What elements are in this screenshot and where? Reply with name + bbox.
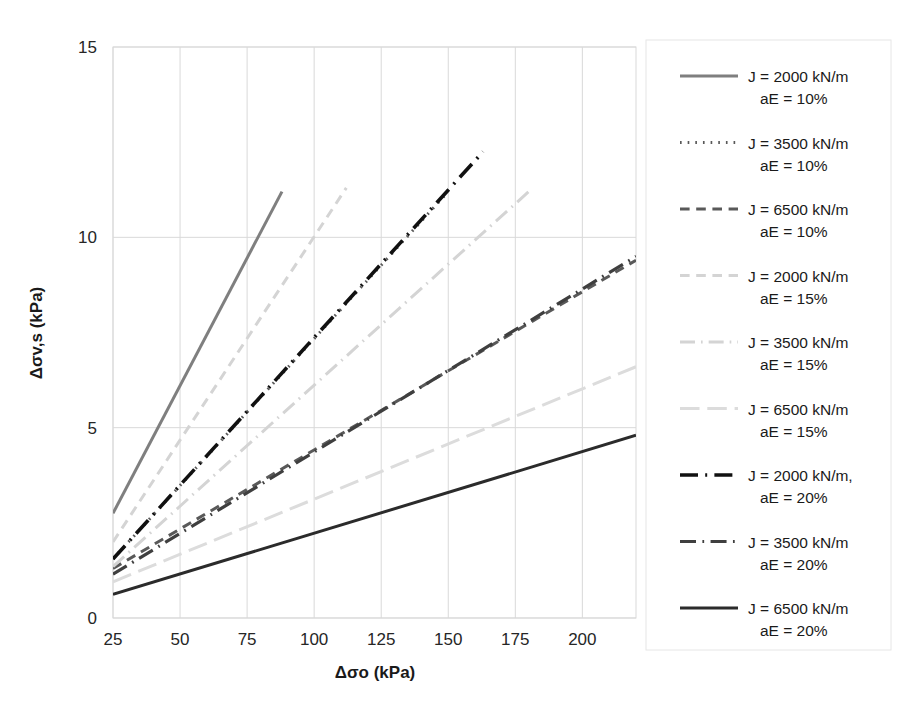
- x-tick-label: 50: [171, 630, 190, 649]
- x-tick-label: 100: [300, 630, 328, 649]
- y-tick-label: 5: [88, 419, 97, 438]
- legend-label-line2: aE = 15%: [760, 356, 828, 373]
- legend-label-line2: aE = 10%: [760, 157, 828, 174]
- x-tick-label: 125: [367, 630, 395, 649]
- legend-label-line2: aE = 10%: [760, 223, 828, 240]
- legend-label-line1: J = 6500 kN/m: [748, 401, 848, 418]
- legend-label-line1: J = 2000 kN/m: [748, 268, 848, 285]
- legend-label-line1: J = 2000 kN/m,: [748, 467, 853, 484]
- legend-label-line1: J = 3500 kN/m: [748, 135, 848, 152]
- legend-label-line2: aE = 15%: [760, 290, 828, 307]
- legend-label-line2: aE = 15%: [760, 423, 828, 440]
- legend-label-line2: aE = 20%: [760, 556, 828, 573]
- legend-label-line1: J = 6500 kN/m: [748, 201, 848, 218]
- x-tick-label: 150: [434, 630, 462, 649]
- x-tick-label: 25: [104, 630, 123, 649]
- legend-label-line1: J = 3500 kN/m: [748, 334, 848, 351]
- legend-label-line1: J = 3500 kN/m: [748, 534, 848, 551]
- y-axis-title: Δσv,s (kPa): [27, 287, 46, 380]
- legend-label-line1: J = 6500 kN/m: [748, 600, 848, 617]
- x-axis-title: Δσo (kPa): [335, 663, 416, 682]
- y-tick-label: 15: [78, 38, 97, 57]
- legend-label-line2: aE = 20%: [760, 489, 828, 506]
- y-tick-label: 0: [88, 609, 97, 628]
- legend-label-line1: J = 2000 kN/m: [748, 68, 848, 85]
- legend-label-line2: aE = 20%: [760, 622, 828, 639]
- x-tick-label: 200: [568, 630, 596, 649]
- scatter-line-chart: 255075100125150175200 051015 Δσo (kPa) Δ…: [0, 0, 901, 728]
- x-tick-label: 175: [501, 630, 529, 649]
- chart-figure: 255075100125150175200 051015 Δσo (kPa) Δ…: [0, 0, 901, 728]
- y-tick-label: 10: [78, 228, 97, 247]
- x-tick-label: 75: [238, 630, 257, 649]
- legend-label-line2: aE = 10%: [760, 90, 828, 107]
